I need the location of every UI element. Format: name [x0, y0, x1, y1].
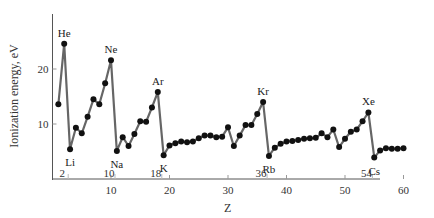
- data-point: [365, 109, 371, 115]
- data-point: [383, 145, 389, 151]
- data-point: [155, 89, 161, 95]
- data-point: [295, 137, 301, 143]
- data-point: [202, 133, 208, 139]
- data-point: [360, 118, 366, 124]
- data-point: [231, 143, 237, 149]
- x-tick-label: 40: [281, 184, 293, 196]
- data-point: [330, 127, 336, 133]
- data-point: [348, 129, 354, 135]
- data-point: [371, 155, 377, 161]
- data-point: [137, 118, 143, 124]
- element-label-cs: Cs: [368, 165, 380, 177]
- x-tick-label: 20: [164, 184, 176, 196]
- x-tick-label: 50: [340, 184, 352, 196]
- data-point: [190, 139, 196, 145]
- data-point: [289, 138, 295, 144]
- element-label-xe: Xe: [362, 95, 375, 107]
- element-label-k: K: [160, 162, 168, 174]
- data-point: [55, 101, 61, 107]
- data-point: [90, 96, 96, 102]
- data-point: [301, 136, 307, 142]
- data-point: [354, 127, 360, 133]
- element-label-kr: Kr: [257, 85, 269, 97]
- element-label-rb: Rb: [263, 163, 276, 175]
- data-point: [79, 130, 85, 136]
- data-point: [272, 145, 278, 151]
- data-point: [266, 153, 272, 159]
- data-point: [172, 140, 178, 146]
- data-point: [377, 147, 383, 153]
- data-point: [120, 134, 126, 140]
- element-label-li: Li: [65, 156, 75, 168]
- data-series: [55, 41, 406, 161]
- element-label-ar: Ar: [152, 75, 164, 87]
- data-point: [324, 134, 330, 140]
- data-point: [342, 136, 348, 142]
- data-point: [161, 152, 167, 158]
- x-tick-label: 30: [223, 184, 235, 196]
- data-point: [213, 134, 219, 140]
- data-point: [307, 135, 313, 141]
- data-point: [248, 122, 254, 128]
- data-point: [126, 143, 132, 149]
- element-annotations: HeNeArKrXeLiNaKRbCs: [58, 27, 380, 177]
- data-point: [73, 125, 79, 131]
- data-point: [313, 135, 319, 141]
- data-point: [61, 41, 67, 47]
- data-point: [389, 146, 395, 152]
- element-label-na: Na: [110, 158, 123, 170]
- data-point: [102, 80, 108, 86]
- data-point: [96, 101, 102, 107]
- data-point: [149, 105, 155, 111]
- data-point: [196, 135, 202, 141]
- data-point: [237, 133, 243, 139]
- data-point: [401, 145, 407, 151]
- y-tick-label: 20: [38, 63, 50, 75]
- ionization-energy-chart: 1020102030405060210183654 HeNeArKrXeLiNa…: [0, 0, 434, 218]
- x-tick-label: 10: [106, 184, 118, 196]
- data-point: [67, 146, 73, 152]
- data-point: [260, 99, 266, 105]
- data-point: [254, 111, 260, 117]
- y-axis-label: Ionization energy, eV: [7, 44, 22, 147]
- data-point: [284, 139, 290, 145]
- data-point: [207, 133, 213, 139]
- data-point: [108, 57, 114, 63]
- element-label-he: He: [58, 27, 71, 39]
- data-point: [114, 148, 120, 154]
- data-point: [85, 114, 91, 120]
- data-point: [219, 134, 225, 140]
- data-point: [184, 139, 190, 145]
- y-tick-label: 10: [38, 118, 50, 130]
- data-point: [319, 130, 325, 136]
- data-point: [395, 146, 401, 152]
- data-point: [225, 124, 231, 130]
- period-marker-label: 2: [59, 167, 65, 179]
- data-point: [278, 141, 284, 147]
- axes: 1020102030405060210183654: [38, 14, 410, 196]
- data-point: [243, 122, 249, 128]
- element-label-ne: Ne: [105, 43, 118, 55]
- data-point: [143, 119, 149, 125]
- x-tick-label: 60: [398, 184, 410, 196]
- data-point: [178, 139, 184, 145]
- data-point: [167, 142, 173, 148]
- data-point: [131, 131, 137, 137]
- x-axis-label: Z: [224, 201, 231, 216]
- data-point: [336, 144, 342, 150]
